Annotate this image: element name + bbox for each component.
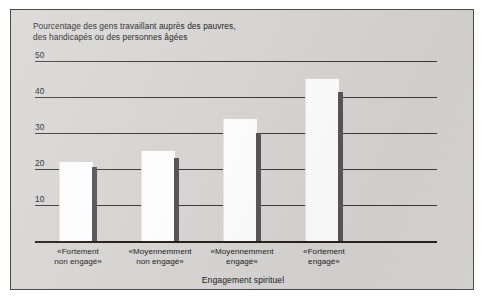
bar-light [141, 151, 175, 241]
category-label: «Fortement non engagé» [37, 247, 119, 267]
gridline-50 [35, 61, 437, 62]
figure-container: Pourcentage des gens travaillant auprès … [0, 0, 484, 299]
chart-panel: Pourcentage des gens travaillant auprès … [10, 9, 474, 290]
y-axis-tick-label: 20 [35, 158, 45, 168]
bar-dark [256, 133, 261, 241]
bar-dark [174, 158, 179, 241]
bar-light [305, 79, 339, 241]
y-axis-tick-label: 10 [35, 194, 45, 204]
x-axis-line [35, 241, 437, 243]
x-axis-title: Engagement spirituel [11, 275, 475, 285]
category-label: «Fortement engagé» [283, 247, 365, 267]
y-axis-tick-label: 50 [35, 50, 45, 60]
y-axis-tick-label: 40 [35, 86, 45, 96]
plot-area: 5040302010 «Fortement non engagé»«Moyenn… [11, 10, 475, 291]
bar-dark [92, 167, 97, 241]
bar-dark [338, 92, 343, 241]
category-label: «Moyennemment engagé» [201, 247, 283, 267]
bar-light [223, 119, 257, 241]
gridline-40 [35, 97, 437, 98]
category-label: «Moyennemment non engagé» [119, 247, 201, 267]
bar-light [59, 162, 93, 241]
y-axis-tick-label: 30 [35, 122, 45, 132]
